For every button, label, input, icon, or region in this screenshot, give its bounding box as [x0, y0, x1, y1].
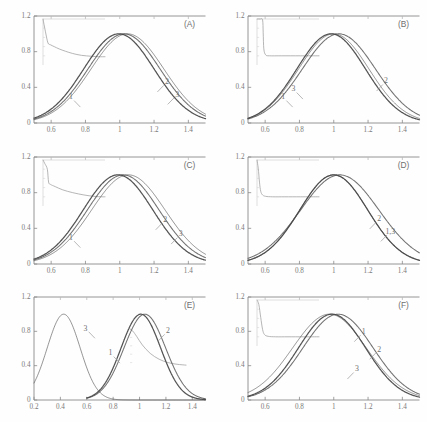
curve-labels: 123	[347, 327, 381, 379]
curve-label-3: 3	[83, 324, 87, 333]
curve-label-1: 1	[361, 327, 365, 336]
data-curves	[34, 34, 206, 120]
curve-label-1: 1	[69, 233, 73, 242]
y-tick-label: 0.4	[22, 83, 31, 91]
curve-2	[87, 314, 206, 399]
y-tick-label: 0.4	[22, 224, 31, 232]
y-tick-label: 0.8	[22, 188, 31, 196]
x-tick-label: 0.8	[294, 403, 303, 411]
x-tick-label: 1.2	[150, 126, 159, 134]
panel-letter: (E)	[184, 300, 195, 310]
y-tick-label: 0.4	[235, 361, 244, 369]
y-axis-ticks: 00.40.81.2	[235, 12, 251, 127]
x-tick-label: 1	[118, 267, 122, 275]
y-tick-label: 0	[27, 119, 31, 127]
curve-labels: 312	[83, 324, 169, 364]
x-tick-label: 1.2	[363, 267, 372, 275]
data-curves	[34, 314, 206, 400]
curve-label-1: 1	[281, 92, 285, 101]
x-tick-label: 0.8	[109, 403, 118, 411]
x-tick-label: 0.6	[47, 267, 56, 275]
x-tick-label: 0.6	[260, 403, 269, 411]
y-axis-ticks: 00.40.81.2	[22, 153, 38, 268]
curve-labels: 123	[69, 215, 183, 248]
x-tick-label: 1.4	[184, 126, 193, 134]
x-tick-label: 1	[138, 403, 142, 411]
curve-label-2: 2	[377, 345, 381, 354]
x-tick-label: 1.4	[397, 267, 406, 275]
data-curves	[248, 34, 420, 120]
x-tick-label: 1.4	[397, 403, 406, 411]
x-tick-label: 1.4	[184, 267, 193, 275]
curve-1	[34, 34, 206, 119]
curve-3	[248, 175, 420, 260]
panel-letter: (B)	[397, 19, 408, 29]
curve-3	[34, 175, 206, 261]
y-tick-label: 0.8	[235, 47, 244, 55]
curve-label-3: 3	[291, 84, 295, 93]
panel-letter: (F)	[398, 300, 409, 310]
y-tick-label: 0.8	[22, 327, 31, 335]
figure-canvas: 0.60.811.21.400.40.81.2123(A)0.60.811.21…	[0, 0, 427, 422]
axes	[248, 157, 420, 264]
curve-label-2: 2	[163, 215, 167, 224]
curve-2	[34, 175, 206, 260]
y-axis-ticks: 00.40.81.2	[235, 153, 251, 268]
inset-plot	[257, 300, 319, 346]
x-tick-label: 1.4	[397, 126, 406, 134]
subplot-a: 0.60.811.21.400.40.81.2123(A)	[0, 0, 214, 145]
y-tick-label: 1.2	[235, 12, 244, 20]
y-tick-label: 1.2	[235, 153, 244, 161]
inset-plot	[130, 329, 186, 365]
curve-label-2: 2	[377, 214, 381, 223]
y-tick-label: 0	[240, 396, 244, 404]
y-tick-label: 0.4	[235, 224, 244, 232]
curve-label-1: 1	[109, 348, 113, 357]
x-tick-label: 0.8	[81, 126, 90, 134]
subplot-c: 0.60.811.21.400.40.81.2123(C)	[0, 141, 214, 286]
panel-letter: (C)	[184, 160, 196, 170]
curve-1	[248, 175, 420, 260]
y-axis-ticks: 00.40.81.2	[22, 12, 38, 127]
inset-plot	[43, 160, 105, 206]
x-tick-label: 0.4	[56, 403, 65, 411]
x-tick-label: 1	[118, 126, 122, 134]
subplot-d: 0.60.811.21.400.40.81.221,3(D)	[214, 141, 427, 286]
panel-letter: (A)	[184, 19, 195, 29]
y-tick-label: 0.8	[235, 188, 244, 196]
curve-1	[34, 175, 206, 260]
curve-2	[34, 34, 206, 119]
curve-1	[248, 34, 420, 120]
y-tick-label: 1.2	[235, 293, 244, 301]
subplot-e: 0.20.40.60.811.21.400.40.81.2312(E)	[0, 281, 214, 422]
x-tick-label: 1	[331, 267, 335, 275]
y-tick-label: 0	[27, 396, 31, 404]
x-tick-label: 0.6	[260, 267, 269, 275]
y-tick-label: 1.2	[22, 153, 31, 161]
curve-label-1-3: 1,3	[385, 227, 395, 236]
subplot-b: 0.60.811.21.400.40.81.2132(B)	[214, 0, 427, 145]
y-tick-label: 0.4	[22, 361, 31, 369]
curve-label-3: 3	[175, 90, 179, 99]
x-tick-label: 0.8	[294, 126, 303, 134]
curve-label-2: 2	[166, 326, 170, 335]
y-axis-ticks: 00.40.81.2	[22, 293, 38, 404]
curve-label-2: 2	[165, 77, 169, 86]
x-tick-label: 1.4	[188, 403, 197, 411]
inset-plot	[257, 160, 319, 206]
x-tick-label: 1.2	[363, 126, 372, 134]
panel-letter: (D)	[397, 160, 409, 170]
x-tick-label: 0.6	[47, 126, 56, 134]
y-tick-label: 1.2	[22, 12, 31, 20]
curve-labels: 132	[281, 76, 388, 107]
x-tick-label: 1.2	[161, 403, 170, 411]
data-curves	[248, 175, 420, 260]
curve-label-3: 3	[354, 364, 358, 373]
subplot-f: 0.60.811.21.400.40.81.2123(F)	[214, 281, 427, 422]
y-tick-label: 0	[27, 260, 31, 268]
x-tick-label: 0.6	[82, 403, 91, 411]
curve-label-2: 2	[384, 76, 388, 85]
x-tick-label: 1	[331, 126, 335, 134]
axes	[34, 297, 206, 400]
y-tick-label: 0.8	[22, 47, 31, 55]
